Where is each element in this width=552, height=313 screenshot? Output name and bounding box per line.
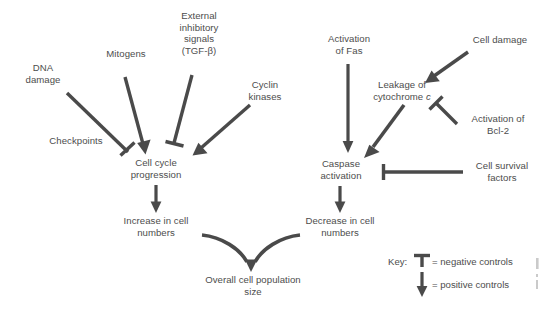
node-increase-in-cell-numbers: Increase in cell numbers: [110, 215, 202, 238]
node-cell-damage: Cell damage: [463, 34, 537, 46]
node-cell-survival-factors: Cell survival factors: [466, 160, 538, 183]
edge-cell-cycle-to-increase: [151, 185, 162, 213]
edge-cyclin-kinases-to-cell-cycle: [193, 105, 251, 156]
edge-decrease-to-overall: [245, 235, 300, 272]
edge-leakage-to-caspase: [364, 105, 404, 158]
key-label-negative-controls: = negative controls: [432, 256, 513, 268]
node-dna-damage: DNA damage: [12, 62, 74, 85]
node-external-inhibitory-signals: External inhibitory signals (TGF-β): [160, 10, 238, 56]
node-checkpoints: Checkpoints: [38, 135, 114, 147]
edge-caspase-to-decrease: [335, 186, 346, 213]
edge-survival-factors-to-caspase: [384, 164, 464, 180]
node-overall-cell-population-size: Overall cell population size: [187, 274, 319, 297]
node-activation-of-bcl2: Activation of Bcl-2: [460, 113, 536, 136]
key-title: Key:: [388, 256, 407, 268]
edge-mitogens-to-cell-cycle: [125, 77, 151, 155]
node-caspase-activation: Caspase activation: [309, 158, 373, 181]
node-activation-of-fas: Activation of Fas: [318, 33, 380, 56]
node-leakage-of-cytochrome-c: Leakage of cytochrome c: [362, 79, 442, 102]
edge-fas-to-caspase: [343, 64, 354, 153]
pathway-diagram: DNA damage Mitogens External inhibitory …: [0, 0, 552, 313]
edge-tgfbeta-to-cell-cycle: [166, 75, 193, 146]
edge-increase-to-overall: [202, 235, 247, 262]
node-cyclin-kinases: Cyclin kinases: [232, 79, 298, 102]
node-cell-cycle-progression: Cell cycle progression: [120, 157, 192, 180]
key-label-positive-controls: = positive controls: [432, 279, 509, 291]
cytochrome-c-italic: c: [426, 91, 431, 102]
node-mitogens: Mitogens: [88, 48, 164, 60]
leakage-label-text: Leakage of cytochrome: [373, 79, 426, 102]
node-decrease-in-cell-numbers: Decrease in cell numbers: [294, 215, 386, 238]
key-legend: Key: = negative controls = positive cont…: [388, 248, 548, 304]
